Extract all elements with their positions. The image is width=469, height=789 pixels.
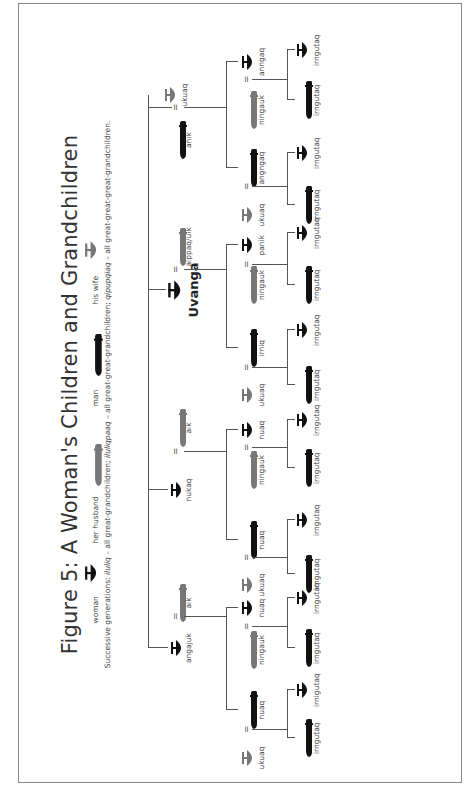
person-label: ukuaq bbox=[257, 384, 266, 407]
connector-line bbox=[226, 608, 227, 710]
person-label: anngaq bbox=[257, 48, 266, 76]
connector-line bbox=[226, 430, 227, 540]
person-label: irngutaq bbox=[312, 632, 321, 664]
connector-line bbox=[287, 420, 288, 468]
kinship-diagram: Figure 5: A Woman's Children and Grandch… bbox=[0, 0, 469, 789]
connector-line bbox=[287, 330, 288, 385]
person-label: irngutaq bbox=[312, 369, 321, 401]
marriage-sign: = bbox=[171, 265, 180, 273]
marriage-sign: = bbox=[242, 75, 251, 83]
marriage-sign: = bbox=[242, 443, 251, 451]
person-label: aippaq/uik bbox=[184, 227, 193, 266]
person-label: irngutaq bbox=[312, 189, 321, 221]
connector-line bbox=[287, 99, 295, 100]
person-label: panik bbox=[257, 235, 266, 256]
connector-line bbox=[287, 737, 295, 738]
person-label: ningauk bbox=[257, 270, 266, 300]
connector-line bbox=[148, 107, 172, 108]
connector-line bbox=[252, 626, 287, 627]
person-label: nukaq bbox=[184, 478, 193, 501]
connector-line bbox=[226, 347, 238, 348]
connector-line bbox=[252, 186, 287, 187]
connector-line bbox=[184, 616, 226, 617]
person-label: irngutaq bbox=[312, 722, 321, 754]
person-label: aik bbox=[184, 422, 193, 433]
legend-label-his-wife: his wife bbox=[91, 276, 100, 305]
term-iluliqpaaq: iluliqpaaq bbox=[103, 421, 112, 458]
person-label: ukuaq bbox=[180, 84, 189, 107]
connector-line bbox=[287, 50, 288, 100]
connector-line bbox=[252, 367, 287, 368]
person-label: irngutaq bbox=[312, 34, 321, 66]
person-label: nuaq bbox=[257, 701, 266, 720]
person-label: anik bbox=[184, 132, 193, 148]
marriage-sign: = bbox=[171, 447, 180, 455]
connector-line bbox=[287, 573, 295, 574]
connector-line bbox=[252, 79, 287, 80]
person-label: ningauk bbox=[257, 95, 266, 125]
connector-line bbox=[287, 233, 288, 285]
person-label: irngutaq bbox=[312, 314, 321, 346]
connector-line bbox=[287, 598, 288, 648]
connector-line bbox=[252, 557, 287, 558]
connector-line bbox=[226, 539, 238, 540]
person-label: nuaq bbox=[257, 599, 266, 618]
person-label: irngutaq bbox=[312, 137, 321, 169]
connector-line bbox=[287, 597, 295, 598]
root-person-uvanga: Uvanga bbox=[186, 262, 201, 317]
connector-line bbox=[184, 451, 226, 452]
marriage-sign: = bbox=[242, 725, 251, 733]
person-label: irngutaq bbox=[312, 269, 321, 301]
connector-line bbox=[287, 204, 295, 205]
connector-line bbox=[252, 447, 287, 448]
connector-line bbox=[287, 49, 295, 50]
connector-line bbox=[287, 153, 288, 205]
person-label: irniq bbox=[257, 340, 266, 357]
connector-line bbox=[287, 329, 295, 330]
person-label: irngutaq bbox=[312, 404, 321, 436]
connector-line bbox=[287, 284, 295, 285]
connector-line bbox=[226, 167, 238, 168]
marriage-sign: = bbox=[171, 103, 180, 111]
subtitle-def-1: – all great-grandchildren; bbox=[103, 458, 112, 557]
connector-line bbox=[287, 152, 295, 153]
connector-line bbox=[287, 520, 288, 574]
connector-line bbox=[287, 419, 295, 420]
marriage-sign: = bbox=[242, 553, 251, 561]
connector-line bbox=[287, 384, 295, 385]
person-label: nuaq bbox=[257, 421, 266, 440]
term-qipupqiaq: qipupqiaq bbox=[103, 262, 112, 299]
figure-subtitle: Successive generations: iluliq – all gre… bbox=[103, 0, 112, 789]
person-label: ukuaq bbox=[257, 747, 266, 770]
connector-line bbox=[184, 107, 226, 108]
subtitle-def-3: – all great-great-great-grandchildren. bbox=[103, 121, 112, 263]
person-label: ningauk bbox=[257, 635, 266, 665]
connector-line bbox=[226, 62, 227, 168]
connector-line bbox=[148, 647, 168, 648]
marriage-sign: = bbox=[171, 612, 180, 620]
person-label: irnigutaq bbox=[312, 673, 321, 707]
connector-line bbox=[252, 264, 287, 265]
connector-line bbox=[226, 245, 227, 348]
term-iluliq: iluliq bbox=[103, 557, 112, 575]
connector-line bbox=[287, 467, 295, 468]
legend-label-her-husband: her husband bbox=[91, 496, 100, 543]
person-label: ningauk bbox=[257, 455, 266, 485]
connector-line bbox=[184, 269, 226, 270]
person-label: ukuaq bbox=[257, 574, 266, 597]
figure-title: Figure 5: A Woman's Children and Grandch… bbox=[58, 0, 82, 789]
person-label: nuaq bbox=[257, 531, 266, 550]
legend-label-woman: woman bbox=[91, 596, 100, 623]
person-label: aik bbox=[184, 597, 193, 608]
connector-line bbox=[148, 289, 166, 290]
connector-line bbox=[226, 607, 238, 608]
connector-line bbox=[287, 689, 295, 690]
connector-line bbox=[287, 690, 288, 738]
connector-line bbox=[226, 61, 238, 62]
connector-line bbox=[226, 429, 238, 430]
his-wife-icon bbox=[84, 240, 103, 260]
connector-line bbox=[148, 95, 149, 648]
subtitle-def-2: – all great-great-grandchildren; bbox=[103, 300, 112, 422]
connector-line bbox=[226, 244, 238, 245]
marriage-sign: = bbox=[242, 182, 251, 190]
